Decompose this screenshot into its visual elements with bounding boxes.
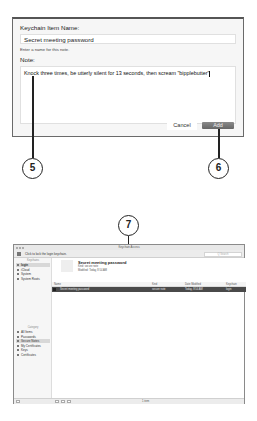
keychain-icon <box>17 264 19 266</box>
item-count: 1 item <box>142 399 149 404</box>
sidebar-item-system[interactable]: System <box>16 272 50 276</box>
sidebar-item-icloud[interactable]: iCloud <box>16 268 50 272</box>
lock-status-text: Click to lock the login keychain. <box>25 251 67 257</box>
callout-7: 7 <box>118 215 139 236</box>
sidebar-item-my-certificates[interactable]: My Certificates <box>16 344 50 348</box>
note-icon <box>17 340 19 342</box>
column-kind[interactable]: Kind <box>152 283 157 287</box>
item-name-label: Keychain Item Name: <box>20 24 79 31</box>
row-kind: secure note <box>152 288 166 292</box>
callout-6: 6 <box>208 158 229 179</box>
certificate-icon <box>17 345 19 347</box>
items-table: Name Kind Date Modified Keychain Secret … <box>52 282 246 398</box>
add-item-icon[interactable] <box>55 400 59 403</box>
add-button[interactable]: Add <box>202 122 234 129</box>
search-input[interactable]: Q Search <box>204 252 242 257</box>
sidebar-item-keys[interactable]: Keys <box>16 348 50 352</box>
note-textarea[interactable]: Knock three times, be utterly silent for… <box>20 66 236 124</box>
detail-modified: Modified: Today, 8:54 AM <box>78 269 107 272</box>
keychain-icon <box>17 278 19 280</box>
add-secure-note-dialog: Keychain Item Name: Secret meeting passw… <box>12 17 244 137</box>
sidebar-item-login[interactable]: login <box>16 263 50 267</box>
secure-note-icon <box>61 260 73 272</box>
zoom-window-icon[interactable] <box>22 247 24 249</box>
key-icon <box>17 349 19 351</box>
sidebar-item-system-roots[interactable]: System Roots <box>16 277 50 281</box>
sidebar-toggle-icon[interactable] <box>16 400 20 403</box>
sidebar-item-all-items[interactable]: All Items <box>16 330 50 334</box>
keychain-icon <box>17 269 19 271</box>
window-title: Keychain Access <box>118 245 139 249</box>
status-bar: 1 item <box>14 398 244 404</box>
minimize-window-icon[interactable] <box>19 247 21 249</box>
category-heading: Category <box>14 326 52 329</box>
table-row[interactable]: Secret meeting password secure note Toda… <box>52 287 246 292</box>
column-keychain[interactable]: Keychain <box>226 283 237 287</box>
item-name-hint: Enter a name for this note. <box>20 47 69 52</box>
row-keychain: login <box>226 288 231 292</box>
column-date-modified[interactable]: Date Modified <box>185 283 201 287</box>
callout-5-leader <box>32 76 34 158</box>
sidebar-item-passwords[interactable]: Passwords <box>16 335 50 339</box>
callout-6-leader <box>218 129 220 158</box>
row-name: Secret meeting password <box>60 288 89 292</box>
callout-5: 5 <box>22 158 43 179</box>
row-date: Today, 8:54 AM <box>185 288 203 292</box>
password-icon <box>17 336 19 338</box>
keychain-icon <box>17 273 19 275</box>
note-label: Note: <box>20 56 35 63</box>
sidebar-item-secure-notes[interactable]: Secure Notes <box>16 339 50 343</box>
keychains-heading: Keychains <box>14 259 52 262</box>
item-name-field[interactable]: Secret meeting password <box>20 34 236 44</box>
cancel-button[interactable]: Cancel <box>167 121 197 130</box>
all-items-icon <box>17 331 19 333</box>
keychain-access-window: Keychain Access Click to lock the login … <box>13 244 245 404</box>
certificate-icon <box>17 354 19 356</box>
copy-icon[interactable] <box>67 400 71 403</box>
close-window-icon[interactable] <box>16 247 18 249</box>
sidebar: Keychains login iCloud System System Roo… <box>14 258 52 398</box>
lock-icon[interactable] <box>17 252 21 256</box>
column-name[interactable]: Name <box>54 283 61 287</box>
toolbar: Click to lock the login keychain. Q Sear… <box>14 250 244 258</box>
info-icon[interactable] <box>61 400 65 403</box>
note-text: Knock three times, be utterly silent for… <box>24 70 209 76</box>
item-detail-panel: Secret meeting password Kind: secure not… <box>52 258 246 282</box>
sidebar-item-certificates[interactable]: Certificates <box>16 353 50 357</box>
secure-note-icon <box>53 288 56 291</box>
text-caret <box>209 71 210 77</box>
